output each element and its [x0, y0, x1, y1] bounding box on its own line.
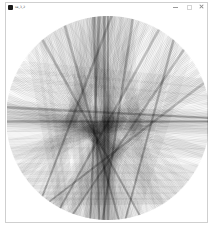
- window-controls: [172, 4, 205, 10]
- app-icon: [8, 5, 13, 10]
- minimize-icon[interactable]: [172, 4, 179, 10]
- close-icon[interactable]: [198, 4, 205, 10]
- sketch-window: sa_3_2: [5, 2, 208, 223]
- maximize-icon[interactable]: [185, 4, 192, 10]
- window-title: sa_3_2: [15, 5, 25, 10]
- sketch-canvas[interactable]: [7, 12, 208, 223]
- title-bar[interactable]: sa_3_2: [6, 3, 207, 12]
- chord-drawing: [7, 12, 208, 223]
